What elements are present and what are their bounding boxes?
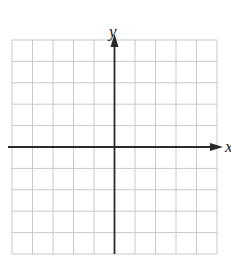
y-axis-label: y [107,22,117,41]
axes [8,34,223,254]
coordinate-plane: y x [0,0,231,265]
x-axis-label: x [224,137,231,156]
